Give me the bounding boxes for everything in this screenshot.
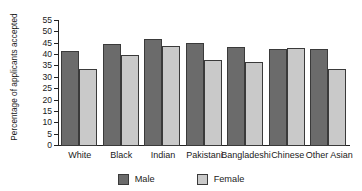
bar-group [308,20,350,146]
y-tick-mark [54,65,58,66]
bar-female [79,69,97,146]
y-tick-mark [54,20,58,21]
bar-male [310,49,328,146]
y-tick-mark [54,134,58,135]
y-tick-label: 45 [26,38,52,48]
y-tick-label: 25 [26,83,52,93]
bar-male [144,39,162,146]
y-tick-label: 50 [26,26,52,36]
legend-item-female[interactable]: Female [197,174,245,185]
bar-group [267,20,309,146]
y-tick-mark [54,111,58,112]
male-swatch-icon [118,174,129,185]
y-tick-mark [54,31,58,32]
bar-male [103,44,121,146]
y-tick-label: 20 [26,95,52,105]
bar-female [245,62,263,146]
y-tick-mark [54,122,58,123]
y-tick-mark [54,77,58,78]
plot-area: 5550454035302520151050 [58,20,350,146]
bar-male [186,43,204,146]
bar-group [59,20,101,146]
y-tick-mark [54,145,58,146]
legend-label: Female [214,174,245,185]
y-tick-mark [54,88,58,89]
bar-female [162,46,180,146]
y-axis-title: Percentage of applicants accepted [8,2,22,152]
bar-group [225,20,267,146]
x-axis-label: Other Asian [298,150,360,162]
y-tick-label: 40 [26,49,52,59]
y-tick-label: 55 [26,15,52,25]
bar-male [227,47,245,146]
y-tick-label: 30 [26,72,52,82]
bar-group [184,20,226,146]
y-tick-label: 5 [26,129,52,139]
bar-group [142,20,184,146]
bar-group [101,20,143,146]
y-tick-label: 15 [26,106,52,116]
bar-male [269,49,287,146]
bar-chart: Percentage of applicants accepted 555045… [0,0,362,191]
chart-legend: MaleFemale [0,171,362,187]
bar-female [204,60,222,146]
female-swatch-icon [197,174,208,185]
legend-item-male[interactable]: Male [118,174,155,185]
bar-female [328,69,346,146]
y-tick-mark [54,54,58,55]
bar-female [121,55,139,146]
bars-layer [59,20,350,146]
y-tick-label: 0 [26,140,52,150]
y-tick-mark [54,100,58,101]
y-tick-mark [54,43,58,44]
bar-male [61,51,79,146]
legend-label: Male [135,174,155,185]
y-tick-label: 35 [26,60,52,70]
bar-female [287,48,305,146]
y-tick-label: 10 [26,117,52,127]
